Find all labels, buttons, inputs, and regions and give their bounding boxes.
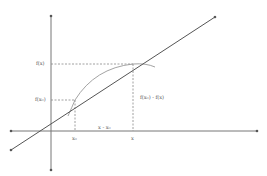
label-delta-x: x - x₀ xyxy=(98,124,111,130)
label-x0: x₀ xyxy=(72,135,77,141)
label-x: x xyxy=(131,135,134,141)
label-f-x: f(x) xyxy=(36,60,45,66)
label-f-x0: f(x₀) xyxy=(35,96,46,102)
function-curve xyxy=(68,64,155,116)
secant-diagram xyxy=(0,0,267,176)
label-delta-y: f(x₀) - f(x) xyxy=(140,94,164,100)
secant-line xyxy=(11,17,215,150)
